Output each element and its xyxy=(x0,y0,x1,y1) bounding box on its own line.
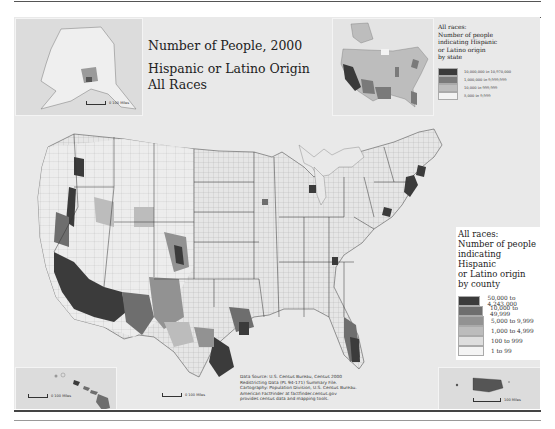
legend-swatch xyxy=(438,84,458,92)
frame-bottom-rule xyxy=(14,410,541,412)
title-line-3: All Races xyxy=(148,77,310,93)
county-legend-item: 5,000 to 9,999 xyxy=(458,316,538,326)
legend-swatch xyxy=(458,296,480,306)
state-inset-map xyxy=(332,18,434,116)
state-legend-item: 5,000 to 9,999 xyxy=(438,92,511,100)
hawaii-inset: 0 100 Miles xyxy=(15,367,117,409)
county-legend-heading-4: or Latino origin xyxy=(458,269,538,279)
map-title: Number of People, 2000 Hispanic or Latin… xyxy=(148,38,310,93)
title-line-1: Number of People, 2000 xyxy=(148,38,310,53)
legend-swatch xyxy=(438,92,458,100)
county-legend-heading-2: Number of people xyxy=(458,239,538,249)
source-note: Data Source: U.S. Census Bureau, Census … xyxy=(240,374,357,402)
county-legend-heading-3: indicating Hispanic xyxy=(458,249,538,269)
county-legend-item: 1 to 99 xyxy=(458,346,538,356)
legend-swatch xyxy=(458,316,484,326)
county-legend-heading-1: All races: xyxy=(458,229,538,239)
county-legend: All races: Number of people indicating H… xyxy=(456,227,540,360)
legend-swatch xyxy=(458,336,484,346)
state-legend-heading-1: All races: xyxy=(438,23,511,31)
state-legend-item: 1,000,000 to 9,999,999 xyxy=(438,76,511,84)
northeast-high xyxy=(404,175,418,197)
state-legend-item: 10,000,000 to 10,970,000 xyxy=(438,68,511,76)
state-legend-heading-2: Number of people xyxy=(438,31,511,39)
state-legend-item: 10,000 to 999,999 xyxy=(438,84,511,92)
county-legend-heading-5: by county xyxy=(458,279,538,289)
county-legend-item: 10,000 to 49,999 xyxy=(458,306,538,316)
legend-swatch xyxy=(438,76,458,84)
legend-swatch xyxy=(458,306,483,316)
alaska-inset: 0 100 Miles xyxy=(15,18,143,116)
state-legend-heading-5: by state xyxy=(438,53,511,61)
legend-swatch xyxy=(458,346,484,356)
state-legend-heading-3: indicating Hispanic xyxy=(438,38,511,46)
county-legend-item: 1,000 to 4,999 xyxy=(458,326,538,336)
alaska-scale-bar: 0 100 Miles xyxy=(86,101,129,105)
legend-swatch xyxy=(458,326,484,336)
conus-scale-bar: 0 100 Miles xyxy=(162,393,205,397)
chicago-high xyxy=(309,185,316,193)
county-legend-item: 100 to 999 xyxy=(458,336,538,346)
map-frame: 0 100 Miles Number of People, 2000 Hispa… xyxy=(14,17,540,409)
state-legend: All races: Number of people indicating H… xyxy=(438,23,511,100)
puerto-rico-scale-bar: 100 Miles xyxy=(473,398,521,402)
state-legend-heading-4: or Latino origin xyxy=(438,46,511,54)
legend-swatch xyxy=(438,68,458,76)
bottom-rule xyxy=(14,420,541,421)
hawaii-scale-bar: 0 100 Miles xyxy=(28,394,71,398)
title-line-2: Hispanic or Latino Origin xyxy=(148,61,310,77)
puerto-rico-inset: 100 Miles xyxy=(438,367,540,409)
top-rule xyxy=(14,1,541,2)
